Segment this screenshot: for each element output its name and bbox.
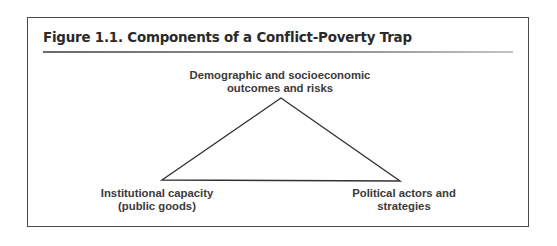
node-right-label: Political actors and strategies xyxy=(334,187,474,213)
node-right-line2: strategies xyxy=(334,200,474,213)
node-left-line1: Institutional capacity xyxy=(87,187,227,200)
node-right-line1: Political actors and xyxy=(334,187,474,200)
node-left-label: Institutional capacity (public goods) xyxy=(87,187,227,213)
node-left-line2: (public goods) xyxy=(87,200,227,213)
conflict-poverty-triangle xyxy=(162,98,400,181)
